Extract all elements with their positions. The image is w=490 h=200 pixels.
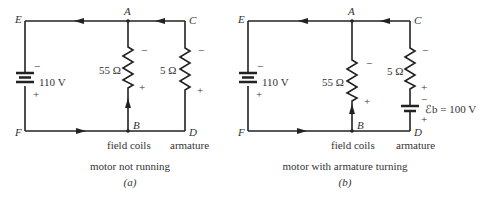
arrow-up-icon (125, 98, 131, 108)
source-minus-label: − (34, 60, 40, 72)
source-value-label: 110 V (262, 76, 289, 88)
node-b-label: B (357, 119, 364, 131)
field-resistor-minus: − (141, 44, 147, 56)
node-e-label: E (238, 13, 245, 25)
node-a-label: A (348, 5, 355, 17)
arrow-left-icon (298, 18, 308, 24)
battery-110v-a (16, 73, 34, 82)
battery-back-emf-b (401, 106, 419, 111)
caption-b: motor with armature turning (260, 160, 430, 172)
field-resistor-plus: + (364, 95, 370, 107)
junction-dot (350, 129, 354, 133)
node-d-label: D (414, 126, 422, 138)
source-value-label: 110 V (39, 76, 66, 88)
source-minus-label: − (257, 60, 263, 72)
armature-label: armature (396, 139, 435, 151)
field-resistor-minus: − (366, 57, 372, 69)
arrow-right-icon (76, 128, 86, 134)
armature-resistor-plus: + (421, 81, 427, 93)
arrow-left-icon (380, 18, 390, 24)
back-emf-value: ℰb = 100 V (425, 103, 476, 115)
arrow-right-icon (297, 128, 307, 134)
armature-resistor-minus: − (422, 44, 428, 56)
armature-resistor-minus: − (198, 44, 204, 56)
source-plus-label: + (33, 88, 39, 100)
field-coils-label: field coils (331, 139, 375, 151)
node-d-label: D (189, 126, 197, 138)
battery-110v-b (239, 73, 257, 82)
junction-dot (350, 19, 354, 23)
node-c-label: C (414, 14, 421, 26)
node-e-label: E (15, 13, 22, 25)
field-coils-label: field coils (107, 139, 151, 151)
node-b-label: B (133, 119, 140, 131)
node-f-label: F (15, 126, 22, 138)
source-plus-label: + (256, 88, 262, 100)
armature-resistor-plus: + (197, 84, 203, 96)
armature-resistor-value: 5 Ω (160, 64, 176, 76)
resistor-5-a (180, 21, 190, 131)
armature-resistor-value: 5 Ω (387, 65, 403, 77)
arrow-up-icon (349, 104, 355, 114)
node-a-label: A (124, 5, 131, 17)
resistor-55-b (347, 21, 357, 131)
node-c-label: C (189, 14, 196, 26)
sublabel-a: (a) (55, 176, 205, 188)
field-resistor-plus: + (139, 81, 145, 93)
caption-a: motor not running (55, 160, 205, 172)
junction-dot (126, 129, 130, 133)
arrow-left-icon (74, 18, 84, 24)
sublabel-b: (b) (260, 176, 430, 188)
node-f-label: F (238, 126, 245, 138)
field-resistor-value: 55 Ω (322, 76, 344, 88)
arrow-left-icon (155, 18, 165, 24)
junction-dot (126, 19, 130, 23)
resistor-5-b (405, 21, 415, 131)
armature-label: armature (170, 139, 209, 151)
back-emf-plus: + (421, 113, 427, 125)
resistor-55-a (123, 21, 133, 131)
field-resistor-value: 55 Ω (99, 64, 121, 76)
